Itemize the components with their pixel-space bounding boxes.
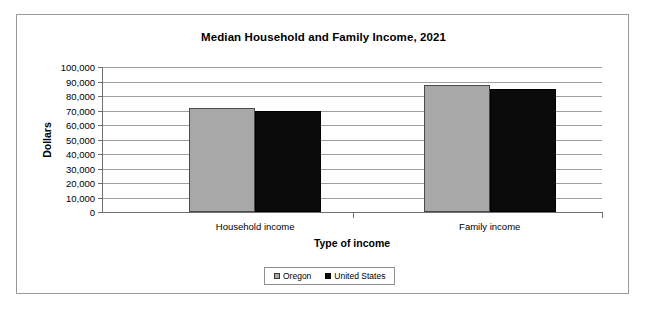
y-axis-tick [98, 82, 103, 83]
y-axis-tick-label: 80,000 [66, 91, 95, 102]
chart-legend: Oregon United States [264, 267, 395, 285]
x-axis-category-label: Household income [216, 221, 295, 232]
x-axis-title: Type of income [102, 237, 602, 249]
y-axis-tick-label: 0 [90, 207, 95, 218]
chart-frame: Median Household and Family Income, 2021… [16, 14, 629, 294]
x-axis-category-label: Family income [459, 221, 520, 232]
y-axis-tick [98, 125, 103, 126]
y-axis-tick [98, 96, 103, 97]
y-axis-tick [98, 67, 103, 68]
gridline [103, 82, 602, 83]
y-axis-tick-label: 60,000 [66, 120, 95, 131]
y-axis-tick [98, 140, 103, 141]
y-axis-tick [98, 169, 103, 170]
y-axis-tick-label: 30,000 [66, 163, 95, 174]
y-axis-tick-label: 10,000 [66, 192, 95, 203]
y-axis-tick-label: 100,000 [61, 62, 95, 73]
y-axis-tick-label: 40,000 [66, 149, 95, 160]
y-axis-title: Dollars [39, 67, 55, 213]
y-axis-tick [98, 111, 103, 112]
y-axis-tick [98, 198, 103, 199]
bar-united-states-household-income [255, 111, 321, 212]
plot-area: 010,00020,00030,00040,00050,00060,00070,… [102, 67, 602, 213]
bar-oregon-family-income [424, 85, 490, 212]
legend-swatch-icon-oregon [274, 273, 280, 279]
y-axis-tick-label: 90,000 [66, 76, 95, 87]
y-axis-tick [98, 183, 103, 184]
chart-title: Median Household and Family Income, 2021 [17, 31, 630, 43]
y-axis-tick-label: 50,000 [66, 134, 95, 145]
legend-entry-united-states: United States [325, 271, 385, 281]
y-axis-tick-label: 70,000 [66, 105, 95, 116]
y-axis-tick [98, 154, 103, 155]
legend-swatch-icon-united-states [325, 273, 331, 279]
bar-united-states-family-income [490, 89, 556, 212]
bar-oregon-household-income [189, 108, 255, 212]
legend-label-oregon: Oregon [283, 271, 311, 281]
gridline [103, 67, 602, 68]
legend-label-united-states: United States [334, 271, 385, 281]
x-axis-tick [602, 212, 603, 218]
y-axis-tick-label: 20,000 [66, 178, 95, 189]
x-axis-tick [353, 212, 354, 218]
legend-entry-oregon: Oregon [274, 271, 311, 281]
y-axis-title-label: Dollars [41, 122, 53, 158]
y-axis-tick [98, 212, 103, 213]
